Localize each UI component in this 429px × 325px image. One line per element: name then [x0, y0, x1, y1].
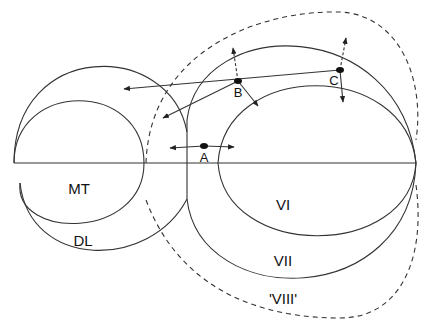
visual-field-diagram: MT DL VI VII 'VIII' A B C	[0, 0, 429, 325]
region-label-mt: MT	[68, 181, 90, 196]
region-label-viii: 'VIII'	[269, 291, 297, 306]
vi-boundary	[218, 86, 416, 236]
dl-upper-boundary	[14, 66, 187, 163]
region-label-vii: VII	[274, 253, 292, 268]
point-label-c: C	[329, 74, 338, 87]
region-label-vi: VI	[276, 197, 290, 212]
point-a-dot	[200, 143, 208, 149]
region-label-dl: DL	[73, 233, 92, 248]
point-b-dot	[234, 78, 242, 84]
dl-lower-boundary	[20, 183, 187, 250]
mt-boundary	[14, 101, 144, 224]
point-label-a: A	[200, 151, 209, 164]
diagram-lines	[0, 0, 429, 325]
point-label-b: B	[234, 86, 243, 99]
